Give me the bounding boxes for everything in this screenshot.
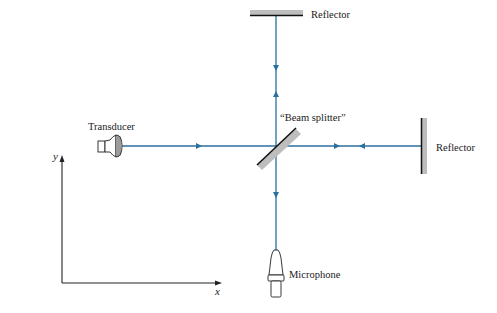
top-reflector: Reflector <box>250 9 351 20</box>
right-reflector: Reflector <box>422 118 476 174</box>
beam-splitter: “Beam splitter” <box>257 112 346 170</box>
arrow-up-icon <box>273 91 279 97</box>
microphone-head-icon <box>269 250 283 275</box>
y-axis-arrow-icon <box>60 155 65 162</box>
transducer-face-icon <box>116 135 122 157</box>
beam-arrows <box>196 65 365 198</box>
x-axis-label: x <box>214 285 220 297</box>
arrow-right-icon <box>196 143 202 149</box>
y-axis-label: y <box>52 150 58 162</box>
arrow-left-icon <box>359 143 365 149</box>
transducer-body <box>98 141 105 152</box>
transducer-horn-icon <box>105 135 116 157</box>
top-reflector-label: Reflector <box>311 9 351 20</box>
beam-paths <box>122 16 421 250</box>
right-reflector-label: Reflector <box>436 142 476 153</box>
arrow-right-icon <box>334 143 340 149</box>
microphone-collar <box>268 275 284 281</box>
beam-splitter-label: “Beam splitter” <box>280 112 346 123</box>
arrow-down-icon <box>273 192 279 198</box>
microphone-handle <box>271 281 281 297</box>
transducer-label: Transducer <box>88 121 135 132</box>
microphone-label: Microphone <box>289 269 341 280</box>
coordinate-axes: y x <box>52 150 222 297</box>
transducer: Transducer <box>88 121 135 157</box>
interferometer-diagram: Reflector Reflector “Beam splitter” Tran… <box>0 0 497 313</box>
microphone: Microphone <box>268 250 341 297</box>
arrow-down-icon <box>273 65 279 71</box>
